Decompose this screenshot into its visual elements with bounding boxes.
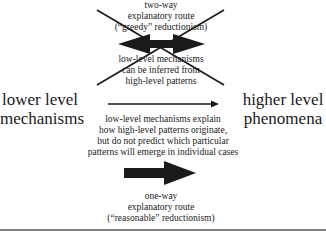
higher-level-phenomena-node: higher level phenomena <box>240 90 326 128</box>
node-line: phenomena <box>240 109 326 128</box>
note-line: patterns will emerge in individual cases <box>78 147 248 158</box>
note-line: high-level patterns <box>96 76 226 87</box>
label-line: explanatory route <box>96 11 226 22</box>
label-line: one-way <box>86 191 236 202</box>
node-line: higher level <box>240 90 326 109</box>
note-line: low-level mechanisms <box>96 54 226 65</box>
inference-note: low-level mechanisms can be inferred fro… <box>96 54 226 87</box>
double-arrow-icon <box>118 34 205 54</box>
label-line: (“reasonable” reductionism) <box>86 213 236 224</box>
one-way-route-label: one-way explanatory route (“reasonable” … <box>86 191 236 224</box>
thick-arrow-icon <box>124 161 196 185</box>
note-line: but do not predict which particular <box>78 136 248 147</box>
label-line: (“greedy” reductionism) <box>96 22 226 33</box>
node-line: lower level <box>0 90 80 109</box>
explanation-note: low-level mechanisms explain how high-le… <box>78 114 248 158</box>
lower-level-mechanisms-node: lower level mechanisms <box>0 90 80 128</box>
note-line: can be inferred from <box>96 65 226 76</box>
label-line: two-way <box>96 0 226 11</box>
note-line: how high-level patterns originate, <box>78 125 248 136</box>
label-line: explanatory route <box>86 202 236 213</box>
node-line: mechanisms <box>0 109 80 128</box>
thin-arrow-icon <box>108 101 219 108</box>
note-line: low-level mechanisms explain <box>78 114 248 125</box>
two-way-route-label: two-way explanatory route (“greedy” redu… <box>96 0 226 33</box>
